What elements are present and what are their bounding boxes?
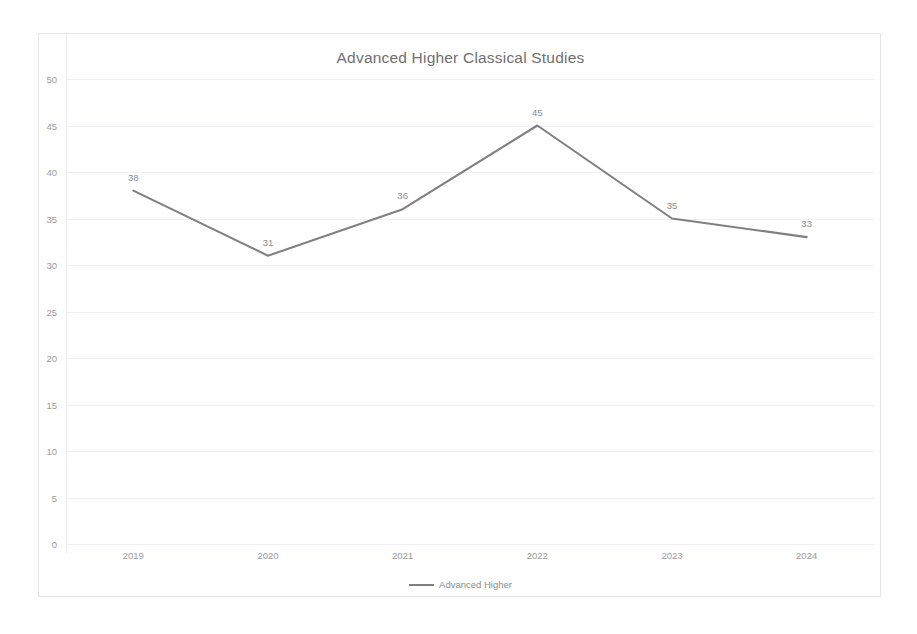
y-axis-tick-label: 20 bbox=[46, 353, 57, 364]
chart-frame: Advanced Higher Classical Studies 504540… bbox=[38, 33, 881, 597]
y-axis-tick-label: 50 bbox=[46, 74, 57, 85]
x-axis-tick-label: 2023 bbox=[661, 550, 682, 561]
y-axis-tick-label: 15 bbox=[46, 399, 57, 410]
chart-legend: Advanced Higher bbox=[39, 579, 882, 590]
data-point-label: 35 bbox=[667, 200, 678, 211]
series-polyline bbox=[133, 126, 806, 256]
legend-label-advanced-higher: Advanced Higher bbox=[439, 579, 512, 590]
x-axis-tick-label: 2019 bbox=[123, 550, 144, 561]
chart-title: Advanced Higher Classical Studies bbox=[39, 49, 882, 67]
y-axis-tick-label: 25 bbox=[46, 306, 57, 317]
gridline bbox=[66, 544, 874, 545]
data-point-label: 33 bbox=[801, 218, 812, 229]
data-point-label: 31 bbox=[263, 237, 274, 248]
y-axis-tick-label: 0 bbox=[52, 539, 57, 550]
y-axis-tick-label: 45 bbox=[46, 120, 57, 131]
y-axis-tick-label: 10 bbox=[46, 446, 57, 457]
x-axis-tick-label: 2024 bbox=[796, 550, 817, 561]
data-point-label: 38 bbox=[128, 172, 139, 183]
x-axis-tick-label: 2021 bbox=[392, 550, 413, 561]
x-axis-tick-label: 2022 bbox=[527, 550, 548, 561]
data-point-label: 36 bbox=[397, 190, 408, 201]
legend-line-swatch-icon bbox=[409, 584, 434, 586]
y-axis-tick-label: 40 bbox=[46, 167, 57, 178]
data-point-label: 45 bbox=[532, 107, 543, 118]
y-axis-tick-label: 5 bbox=[52, 492, 57, 503]
series-line-advanced-higher bbox=[66, 79, 874, 544]
y-axis-tick-label: 30 bbox=[46, 260, 57, 271]
plot-area: 50454035302520151050 2019202020212022202… bbox=[66, 79, 874, 544]
x-axis-tick-label: 2020 bbox=[257, 550, 278, 561]
y-axis-tick-label: 35 bbox=[46, 213, 57, 224]
